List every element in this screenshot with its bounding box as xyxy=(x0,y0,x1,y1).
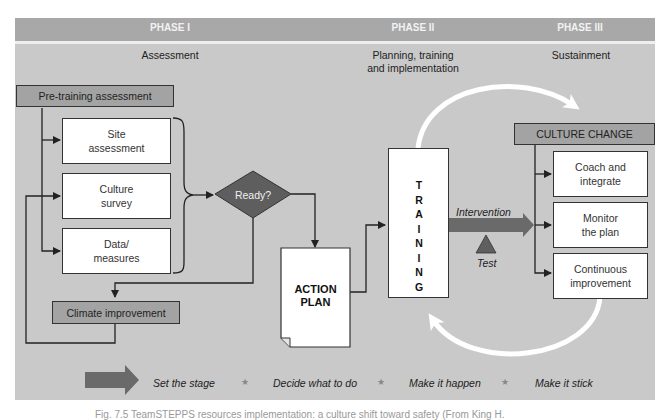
training-letter: I xyxy=(403,222,435,237)
action-plan-line2: PLAN xyxy=(281,296,350,309)
training-letter: N xyxy=(403,265,435,280)
culture-survey-line2: survey xyxy=(100,196,134,210)
legend-make-it-stick: Make it stick xyxy=(535,377,593,389)
site-assessment-line1: Site xyxy=(88,127,144,141)
training-letter: I xyxy=(403,251,435,266)
continuous-improvement-line1: Continuous xyxy=(570,262,631,276)
action-plan-line1: ACTION xyxy=(281,283,350,296)
training-letter: A xyxy=(403,207,435,222)
culture-survey-line1: Culture xyxy=(100,182,134,196)
legend-set-the-stage: Set the stage xyxy=(153,377,215,389)
coach-integrate-line2: integrate xyxy=(575,174,626,188)
coach-integrate-line1: Coach and xyxy=(575,160,626,174)
coach-integrate-box: Coach and integrate xyxy=(553,151,648,197)
action-plan-label: ACTION PLAN xyxy=(281,283,350,309)
site-assessment-line2: assessment xyxy=(88,141,144,155)
legend-separator-star: ★ xyxy=(377,377,385,387)
legend-separator-star: ★ xyxy=(501,377,509,387)
training-letter: G xyxy=(403,280,435,295)
test-label: Test xyxy=(477,257,496,269)
continuous-improvement-box: Continuous improvement xyxy=(553,253,648,299)
monitor-plan-line2: the plan xyxy=(582,225,619,239)
data-measures-line1: Data/ xyxy=(93,237,139,251)
intervention-label: Intervention xyxy=(456,206,511,218)
data-measures-line2: measures xyxy=(93,251,139,265)
figure-caption: Fig. 7.5 TeamSTEPPS resources implementa… xyxy=(95,409,504,420)
monitor-plan-line1: Monitor xyxy=(582,211,619,225)
monitor-plan-box: Monitor the plan xyxy=(553,202,648,248)
ready-decision: Ready? xyxy=(215,171,291,218)
climate-improvement-box: Climate improvement xyxy=(52,301,180,324)
legend-separator-star: ★ xyxy=(241,377,249,387)
training-letter: T xyxy=(403,178,435,193)
legend-decide-what-to-do: Decide what to do xyxy=(273,377,357,389)
training-letter: R xyxy=(403,193,435,208)
training-letter: N xyxy=(403,236,435,251)
culture-survey-box: Culture survey xyxy=(62,173,171,219)
legend-make-it-happen: Make it happen xyxy=(409,377,481,389)
culture-change-box: CULTURE CHANGE xyxy=(514,123,655,145)
site-assessment-box: Site assessment xyxy=(62,118,171,164)
pre-training-assessment-box: Pre-training assessment xyxy=(16,85,174,107)
data-measures-box: Data/ measures xyxy=(62,228,171,274)
continuous-improvement-line2: improvement xyxy=(570,276,631,290)
training-label: T R A I N I N G xyxy=(403,178,435,294)
